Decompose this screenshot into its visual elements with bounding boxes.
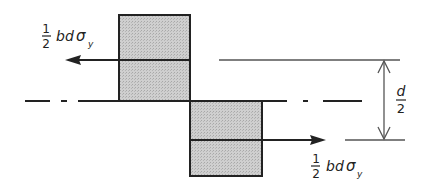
dimension-numerator: d	[397, 83, 406, 99]
tension-block	[190, 101, 262, 176]
top-fraction-denominator: 2	[42, 37, 50, 51]
top-subscript-y: y	[87, 39, 94, 49]
bottom-bd-text: bd	[326, 158, 344, 174]
right-force-arrow	[262, 135, 326, 145]
bottom-subscript-y: y	[356, 169, 363, 179]
top-force-label: 1 2 bd σ y	[42, 22, 94, 51]
lever-arm-dimension-arrow	[378, 61, 390, 139]
bottom-fraction-numerator: 1	[312, 152, 320, 166]
dimension-label: d 2	[396, 83, 406, 116]
left-force-arrow	[65, 55, 119, 65]
stress-block-diagram: 1 2 bd σ y 1 2 bd σ y d 2	[0, 0, 425, 189]
compression-block	[119, 15, 190, 101]
top-fraction-numerator: 1	[42, 22, 50, 36]
bottom-force-label: 1 2 bd σ y	[311, 152, 363, 181]
dimension-denominator: 2	[397, 101, 405, 116]
bottom-sigma-symbol: σ	[346, 157, 356, 175]
top-bd-text: bd	[56, 28, 74, 44]
top-sigma-symbol: σ	[76, 27, 86, 45]
bottom-fraction-denominator: 2	[312, 167, 320, 181]
